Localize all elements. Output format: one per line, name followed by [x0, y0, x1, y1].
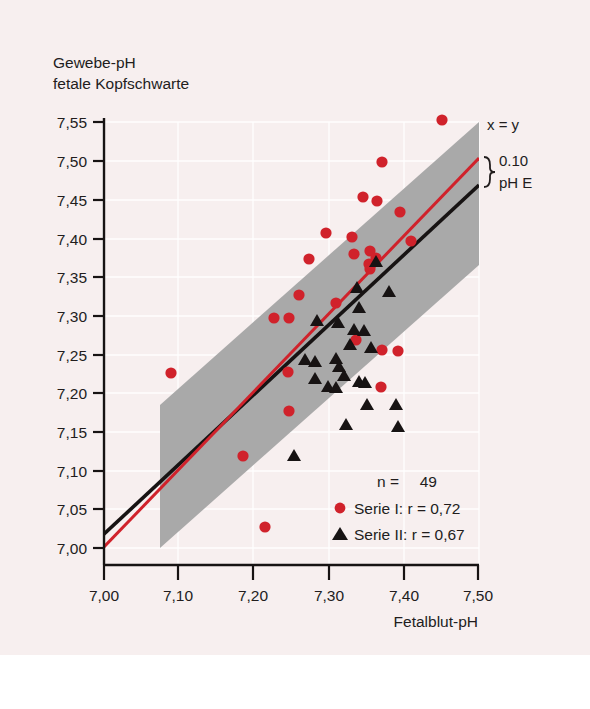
data-point — [339, 418, 353, 430]
data-point — [348, 248, 359, 259]
legend-entry-serie-2: Serie II: r = 0,67 — [354, 526, 465, 543]
x-axis-ticks — [104, 565, 478, 580]
data-point — [287, 449, 301, 461]
band-width-brace — [484, 157, 495, 187]
y-tick-label: 7,30 — [57, 308, 88, 325]
x-tick-label: 7,00 — [89, 587, 120, 604]
x-tick-label: 7,10 — [163, 587, 194, 604]
y-tick-label: 7,40 — [57, 231, 88, 248]
data-point — [282, 366, 293, 377]
page-footer-strip — [0, 655, 590, 709]
chart-legend: n = 49 Serie I: r = 0,72 Serie II: r = 0… — [332, 473, 465, 543]
x-tick-label: 7,20 — [238, 587, 269, 604]
data-point — [376, 156, 387, 167]
y-tick-label: 7,35 — [57, 269, 87, 286]
x-axis-tick-labels: 7,00 7,10 7,20 7,30 7,40 7,50 — [89, 587, 494, 604]
data-point — [357, 191, 368, 202]
data-point — [320, 227, 331, 238]
y-tick-label: 7,25 — [57, 347, 87, 364]
band-width-unit: pH E — [499, 174, 532, 191]
data-point — [376, 344, 387, 355]
data-point — [371, 195, 382, 206]
data-point — [268, 312, 279, 323]
x-tick-label: 7,50 — [463, 587, 494, 604]
y-axis-title-line2: fetale Kopfschwarte — [53, 75, 189, 92]
y-tick-label: 7,00 — [57, 540, 88, 557]
y-axis-title-line1: Gewebe-pH — [53, 54, 136, 71]
data-point — [303, 253, 314, 264]
figure-root: Gewebe-pH fetale Kopfschwarte — [0, 0, 590, 709]
data-point — [259, 521, 270, 532]
y-tick-label: 7,10 — [57, 463, 88, 480]
data-point — [389, 398, 403, 410]
data-point — [330, 297, 341, 308]
legend-n-label: n = — [377, 473, 399, 490]
data-point — [360, 398, 374, 410]
y-axis-tick-labels: 7,55 7,50 7,45 7,40 7,35 7,30 7,25 7,20 … — [57, 114, 88, 557]
data-point — [283, 312, 294, 323]
x-tick-label: 7,30 — [314, 587, 345, 604]
data-point — [283, 405, 294, 416]
y-tick-label: 7,55 — [57, 114, 87, 131]
data-point — [405, 235, 416, 246]
y-tick-label: 7,50 — [57, 153, 88, 170]
band-width-value: 0.10 — [499, 152, 528, 169]
legend-marker-circle-icon — [335, 503, 346, 514]
data-point — [346, 231, 357, 242]
data-point — [165, 367, 176, 378]
y-tick-label: 7,45 — [57, 192, 87, 209]
y-tick-label: 7,05 — [57, 501, 87, 518]
data-point — [394, 206, 405, 217]
y-tick-label: 7,15 — [57, 424, 87, 441]
data-point — [392, 345, 403, 356]
identity-line-label: x = y — [487, 116, 520, 133]
legend-n-value: 49 — [420, 473, 437, 490]
data-point — [436, 114, 447, 125]
y-tick-label: 7,20 — [57, 385, 88, 402]
data-point — [237, 450, 248, 461]
x-axis-title: Fetalblut-pH — [394, 613, 478, 630]
data-point — [375, 381, 386, 392]
x-tick-label: 7,40 — [389, 587, 420, 604]
data-point — [293, 289, 304, 300]
legend-entry-serie-1: Serie I: r = 0,72 — [354, 500, 460, 517]
scatter-chart: Gewebe-pH fetale Kopfschwarte — [0, 0, 590, 709]
legend-marker-triangle-icon — [332, 527, 348, 540]
data-point — [391, 420, 405, 432]
